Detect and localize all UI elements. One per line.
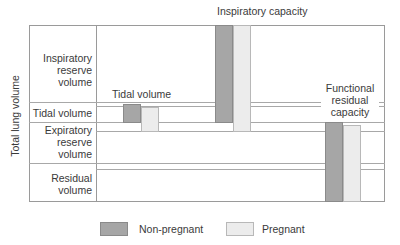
- tidal-volume-bar-pregnant: [141, 107, 159, 132]
- legend-swatch-pregnant: [226, 222, 254, 236]
- inspiratory-capacity-bar-pregnant: [233, 25, 251, 132]
- legend-label-nonpregnant: Non-pregnant: [139, 223, 203, 235]
- row-label-rv: Residual volume: [32, 172, 92, 196]
- inspiratory-capacity-title: Inspiratory capacity: [217, 5, 307, 17]
- legend-label-pregnant: Pregnant: [262, 223, 305, 235]
- row-label-tv: Tidal volume: [30, 107, 92, 119]
- label-column-divider: [96, 25, 97, 202]
- row-label-erv: Expiratory reserve volume: [32, 124, 92, 160]
- row-label-irv: Inspiratory reserve volume: [32, 52, 92, 88]
- frc-bar-nonpregnant: [325, 122, 343, 202]
- inspiratory-capacity-bar-nonpregnant: [215, 25, 233, 123]
- frc-annotation: Functional residual capacity: [315, 82, 385, 118]
- tidal-volume-annotation: Tidal volume: [112, 88, 171, 100]
- frc-bar-pregnant: [343, 125, 361, 202]
- tidal-volume-bar-nonpregnant: [123, 104, 141, 123]
- y-axis-label: Total lung volume: [9, 61, 21, 171]
- legend-swatch-nonpregnant: [100, 222, 128, 236]
